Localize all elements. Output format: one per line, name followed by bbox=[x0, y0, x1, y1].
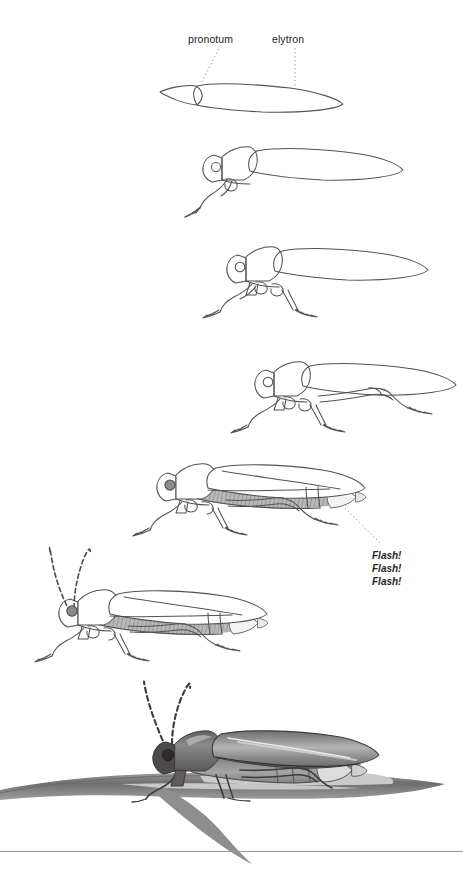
drawing-page: pronotum elytron Flash! Flash! Flash! bbox=[0, 0, 463, 873]
pronotum-label: pronotum bbox=[188, 33, 233, 45]
pronotum-leader-line bbox=[201, 49, 219, 83]
flash-leader-line bbox=[345, 508, 381, 544]
elytron-label: elytron bbox=[272, 33, 304, 45]
flash-line-3: Flash! bbox=[372, 575, 401, 588]
leader-lines-layer bbox=[0, 0, 463, 873]
flash-annotation: Flash! Flash! Flash! bbox=[372, 549, 401, 588]
footer-divider bbox=[0, 851, 463, 852]
flash-line-1: Flash! bbox=[372, 549, 401, 562]
flash-line-2: Flash! bbox=[372, 562, 401, 575]
